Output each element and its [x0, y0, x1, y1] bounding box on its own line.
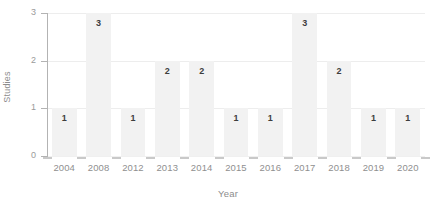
x-axis-tick-label: 2016: [253, 162, 287, 173]
x-axis-tick: [249, 157, 258, 159]
x-axis-tick-label: 2013: [150, 162, 184, 173]
x-axis-tick-label: 2008: [81, 162, 115, 173]
y-axis-tick: [41, 13, 48, 14]
x-axis-tick: [318, 157, 327, 159]
bar-value-label: 1: [116, 113, 150, 123]
bar-value-label: 3: [81, 18, 115, 28]
x-axis-tick: [284, 157, 293, 159]
bar-value-label: 1: [253, 113, 287, 123]
bar-value-label: 3: [288, 18, 322, 28]
x-axis-tick-label: 2017: [288, 162, 322, 173]
x-axis-title: Year: [58, 188, 398, 199]
y-axis-tick: [41, 61, 48, 62]
bar[interactable]: [86, 13, 111, 156]
x-axis-tick: [352, 157, 361, 159]
plot-area: 13122113211: [47, 13, 425, 156]
x-axis-tick-label: 2020: [391, 162, 425, 173]
x-axis-tick-label: 2015: [219, 162, 253, 173]
x-axis-tick: [387, 157, 396, 159]
bar-value-label: 1: [47, 113, 81, 123]
bar-chart: Studies 13122113211 0123 200420082012201…: [0, 0, 440, 214]
y-axis-tick-label: 2: [14, 55, 36, 65]
bar-value-label: 2: [184, 66, 218, 76]
x-axis-tick: [180, 157, 189, 159]
y-axis-tick-label: 1: [14, 102, 36, 112]
x-axis-tick-label: 2019: [356, 162, 390, 173]
axis-baseline: [47, 156, 425, 157]
bar-value-label: 1: [356, 113, 390, 123]
y-axis-tick-label: 0: [14, 150, 36, 160]
y-axis-title: Studies: [0, 54, 14, 120]
y-axis-title-text: Studies: [2, 71, 12, 102]
x-axis-tick-label: 2004: [47, 162, 81, 173]
x-axis-tick: [146, 157, 155, 159]
bar-value-label: 1: [219, 113, 253, 123]
y-axis-line: [47, 13, 48, 157]
y-axis-tick-label: 3: [14, 7, 36, 17]
x-axis-tick: [112, 157, 121, 159]
x-axis-tick-label: 2014: [184, 162, 218, 173]
x-axis-tick-label: 2012: [116, 162, 150, 173]
bar[interactable]: [292, 13, 317, 156]
x-axis-tick: [421, 157, 430, 159]
bar-value-label: 1: [391, 113, 425, 123]
x-axis-tick: [215, 157, 224, 159]
y-axis-tick: [41, 108, 48, 109]
x-axis-tick: [77, 157, 86, 159]
x-axis-title-text: Year: [218, 188, 238, 199]
x-axis-tick: [43, 157, 52, 159]
x-axis-tick-label: 2018: [322, 162, 356, 173]
bar-value-label: 2: [322, 66, 356, 76]
bar-value-label: 2: [150, 66, 184, 76]
